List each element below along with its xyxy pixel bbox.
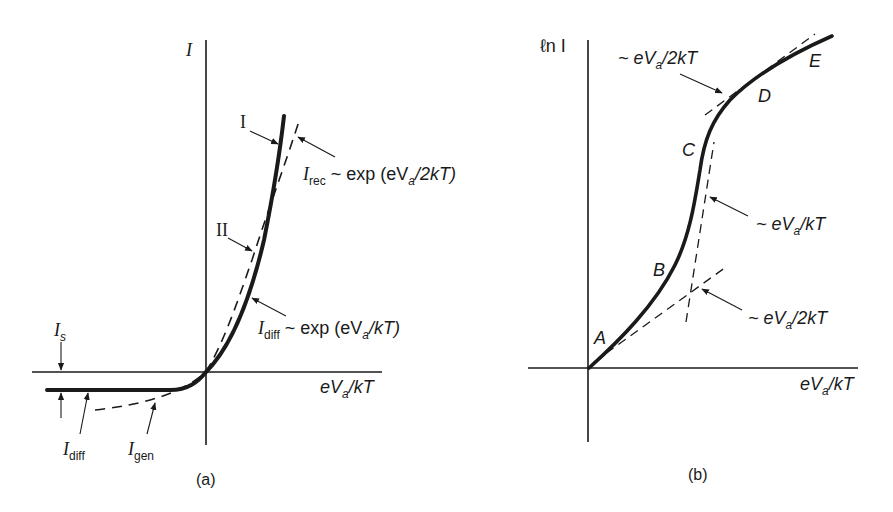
panel-b-y-axis-label: ℓn I — [540, 36, 566, 56]
panel-a-solid-curve — [47, 116, 284, 390]
arrow-curve-II — [228, 238, 252, 251]
arrow-I-rec — [298, 137, 335, 157]
label-slope-top: ~ eVa/2kT — [618, 48, 699, 72]
panel-a-dashed-curve — [95, 118, 300, 410]
region-label-A: A — [593, 328, 606, 348]
panel-b: A B C D E ~ eVa/2kT ~ eVa/kT ~ eVa/2kT ℓ… — [528, 34, 858, 483]
arrow-I-diff-reverse — [80, 393, 88, 434]
label-I-diff-reverse: Idiff — [62, 439, 85, 463]
panel-a-caption: (a) — [196, 471, 216, 488]
arrow-slope-bottom — [702, 289, 742, 310]
label-curve-I: I — [240, 112, 246, 132]
region-label-E: E — [809, 51, 822, 71]
label-I-rec: Irec ~ exp (eVa/2kT) — [302, 164, 456, 188]
arrow-I-gen — [147, 403, 155, 434]
label-slope-mid: ~ eVa/kT — [756, 214, 827, 238]
panel-a-y-axis-label: I — [185, 40, 193, 60]
arrow-I-diff-forward — [252, 298, 286, 316]
label-curve-II: II — [216, 220, 228, 240]
panel-b-dashed-low-slope — [594, 267, 726, 362]
label-I-gen: Igen — [127, 439, 154, 463]
region-label-C: C — [682, 140, 696, 160]
panel-a-x-axis-label: eVa/kT — [320, 377, 376, 401]
panel-a: I Irec ~ exp (eVa/2kT) II Idiff ~ exp (e… — [32, 40, 456, 488]
diode-iv-figure: I Irec ~ exp (eVa/2kT) II Idiff ~ exp (e… — [0, 0, 893, 512]
arrow-slope-top — [680, 74, 722, 93]
panel-b-caption: (b) — [688, 466, 708, 483]
region-label-D: D — [758, 86, 771, 106]
label-I-diff-forward: Idiff ~ exp (eVa/kT) — [257, 318, 400, 342]
region-label-B: B — [653, 260, 665, 280]
label-I-s: Is — [53, 320, 66, 344]
arrow-curve-I — [250, 131, 278, 144]
label-slope-bottom: ~ eVa/2kT — [748, 308, 829, 332]
arrow-slope-mid — [710, 197, 748, 216]
panel-b-x-axis-label: eVa/kT — [800, 374, 856, 398]
